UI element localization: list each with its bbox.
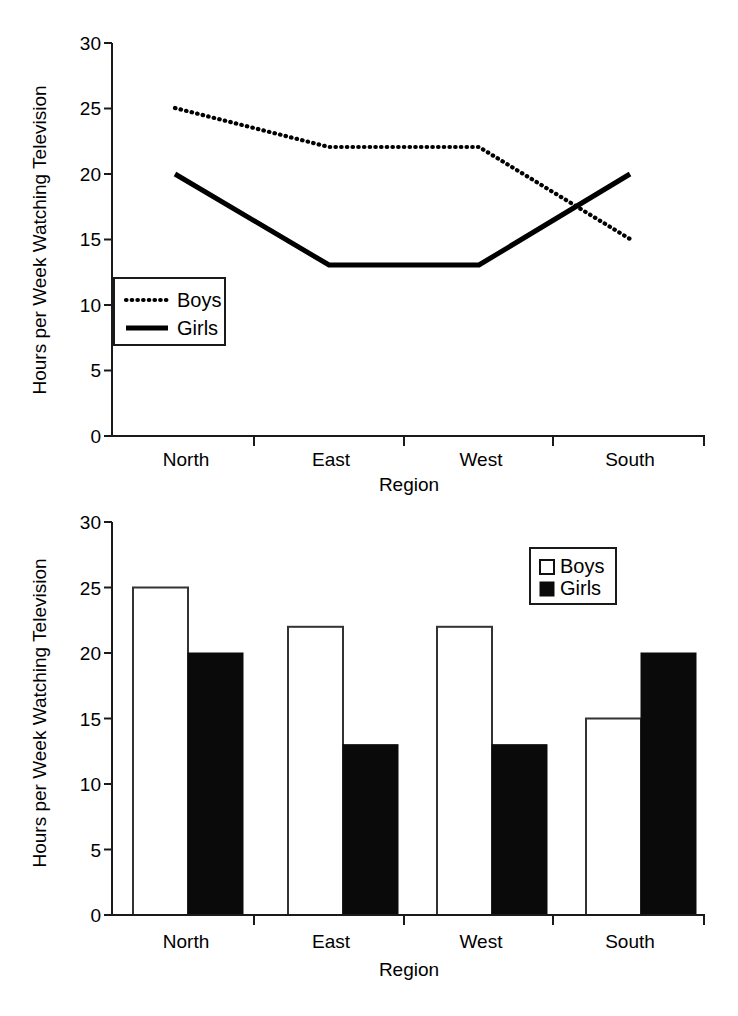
line-chart-x-tick-west: West <box>460 449 504 470</box>
legend-boys-swatch <box>540 560 554 574</box>
bar-chart-legend: Boys Girls <box>530 548 616 604</box>
bar-chart-y-tick-25: 25 <box>80 578 101 599</box>
line-chart-svg: Hours per Week Watching Television 30 25… <box>0 0 738 500</box>
bar-boys-south <box>586 719 641 916</box>
line-chart-y-tick-5: 5 <box>90 360 101 381</box>
bar-chart-y-tick-30: 30 <box>80 512 101 533</box>
bar-chart-y-tick-10: 10 <box>80 774 101 795</box>
line-chart-x-axis-title: Region <box>379 474 439 495</box>
bar-chart-y-tick-15: 15 <box>80 709 101 730</box>
line-chart-y-tick-20: 20 <box>80 164 101 185</box>
legend-boys-label: Boys <box>177 289 221 311</box>
line-chart-y-tick-15: 15 <box>80 229 101 250</box>
bar-chart-x-axis-title: Region <box>379 959 439 980</box>
bar-chart-y-tick-5: 5 <box>90 840 101 861</box>
bar-chart-x-tick-west: West <box>460 931 504 952</box>
bar-girls-south <box>641 653 696 915</box>
line-chart-x-tick-north: North <box>163 449 209 470</box>
bar-chart-x-tick-marks <box>254 915 704 925</box>
figure-page: Hours per Week Watching Television 30 25… <box>0 0 738 1016</box>
line-chart-figure: Hours per Week Watching Television 30 25… <box>0 0 738 500</box>
bar-girls-east <box>343 745 398 915</box>
bar-chart-y-axis-title: Hours per Week Watching Television <box>29 558 50 867</box>
line-chart-y-tick-10: 10 <box>80 295 101 316</box>
bar-chart-x-tick-east: East <box>312 931 351 952</box>
line-chart-y-tick-0: 0 <box>90 426 101 447</box>
bar-legend-boys-label: Boys <box>560 555 604 577</box>
line-chart-x-tick-marks <box>254 436 704 446</box>
line-series-girls <box>175 174 630 265</box>
bar-chart-svg: Hours per Week Watching Television 30 25… <box>0 498 738 1016</box>
bar-girls-west <box>492 745 547 915</box>
bar-chart-x-tick-north: North <box>163 931 209 952</box>
line-chart-y-axis-title: Hours per Week Watching Television <box>29 85 50 394</box>
bar-girls-north <box>188 653 243 915</box>
legend-girls-swatch <box>540 582 554 596</box>
line-chart-x-tick-east: East <box>312 449 351 470</box>
bar-boys-east <box>288 627 343 915</box>
line-chart-legend: Boys Girls <box>114 278 225 345</box>
bar-chart-y-tick-20: 20 <box>80 643 101 664</box>
line-chart-y-tick-25: 25 <box>80 98 101 119</box>
line-chart-y-tick-30: 30 <box>80 33 101 54</box>
bar-chart-figure: Hours per Week Watching Television 30 25… <box>0 498 738 1016</box>
bar-legend-girls-label: Girls <box>560 577 601 599</box>
bar-chart-x-tick-south: South <box>605 931 655 952</box>
line-chart-y-tick-marks <box>104 43 112 436</box>
bar-boys-north <box>133 588 188 916</box>
bar-chart-y-tick-marks <box>104 522 112 915</box>
line-series-boys <box>175 108 630 239</box>
legend-girls-label: Girls <box>177 317 218 339</box>
bar-boys-west <box>437 627 492 915</box>
line-chart-x-tick-south: South <box>605 449 655 470</box>
bar-chart-y-tick-0: 0 <box>90 905 101 926</box>
